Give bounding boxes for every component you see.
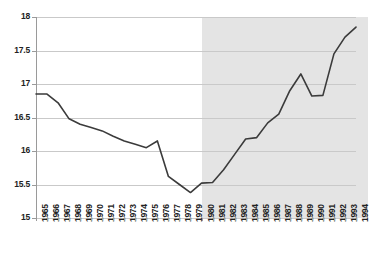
y-axis-tick-mark — [32, 84, 36, 85]
y-axis-tick-mark — [32, 118, 36, 119]
y-axis-tick-mark — [32, 218, 36, 219]
data-line-series-1 — [36, 27, 356, 192]
y-axis-tick-mark — [32, 17, 36, 18]
line-chart: 1515.51616.51717.518 1965196619671968196… — [0, 0, 369, 254]
y-axis-tick-mark — [32, 51, 36, 52]
y-axis-tick-mark — [32, 185, 36, 186]
y-axis-tick-mark — [32, 151, 36, 152]
series-layer — [0, 0, 369, 254]
